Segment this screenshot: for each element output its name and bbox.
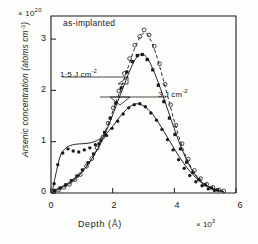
data-point-1p5 bbox=[173, 133, 176, 136]
data-point-1p5 bbox=[179, 147, 182, 150]
data-point-3 bbox=[121, 112, 124, 115]
plot-canvas bbox=[0, 0, 258, 244]
data-point-3 bbox=[160, 128, 163, 131]
data-point-3 bbox=[171, 148, 174, 151]
data-point-1p5 bbox=[81, 168, 84, 171]
data-point-3 bbox=[155, 118, 158, 121]
data-point-1p5 bbox=[216, 188, 219, 191]
data-point-3 bbox=[213, 189, 216, 192]
data-point-3 bbox=[166, 138, 169, 141]
data-point-3 bbox=[52, 182, 55, 185]
data-point-3 bbox=[127, 106, 130, 109]
data-point-1p5 bbox=[197, 178, 200, 181]
data-point-1p5 bbox=[103, 131, 106, 134]
data-point-3 bbox=[138, 102, 141, 105]
data-point-3 bbox=[99, 139, 102, 142]
data-point-1p5 bbox=[109, 116, 112, 119]
data-point-1p5 bbox=[157, 84, 160, 87]
data-point-1p5 bbox=[136, 54, 139, 57]
data-point-3 bbox=[72, 149, 75, 152]
data-point-as-implanted bbox=[142, 28, 146, 32]
data-point-3 bbox=[83, 148, 86, 151]
data-point-1p5 bbox=[191, 171, 194, 174]
data-point-1p5 bbox=[59, 186, 62, 189]
data-point-3 bbox=[183, 167, 186, 170]
data-point-as-implanted bbox=[128, 57, 132, 61]
data-point-1p5 bbox=[64, 183, 67, 186]
data-point-1p5 bbox=[92, 152, 95, 155]
data-point-1p5 bbox=[98, 142, 101, 145]
data-point-1p5 bbox=[185, 161, 188, 164]
data-point-3 bbox=[61, 151, 64, 154]
data-point-1p5 bbox=[86, 161, 89, 164]
data-point-3 bbox=[66, 147, 69, 150]
data-point-3 bbox=[88, 146, 91, 149]
data-point-as-implanted bbox=[158, 62, 162, 66]
data-point-1p5 bbox=[131, 60, 134, 63]
data-point-3 bbox=[194, 180, 197, 183]
data-point-as-implanted bbox=[111, 106, 115, 110]
data-point-3 bbox=[149, 111, 152, 114]
data-point-3 bbox=[188, 174, 191, 177]
chart-figure: × 1020 Arsenic concentration (atoms cm-3… bbox=[0, 0, 258, 244]
data-point-3 bbox=[177, 158, 180, 161]
data-point-1p5 bbox=[151, 68, 154, 71]
data-point-3 bbox=[105, 134, 108, 137]
data-point-1p5 bbox=[75, 174, 78, 177]
plot-frame bbox=[51, 16, 236, 193]
data-point-3 bbox=[56, 163, 59, 166]
data-point-1p5 bbox=[141, 53, 144, 56]
leader-arrow-3 bbox=[110, 97, 130, 105]
data-point-3 bbox=[77, 150, 80, 153]
data-point-1p5 bbox=[204, 183, 207, 186]
data-point-1p5 bbox=[210, 186, 213, 189]
data-point-1p5 bbox=[120, 86, 123, 89]
data-point-1p5 bbox=[168, 116, 171, 119]
data-point-1p5 bbox=[70, 179, 73, 182]
data-point-3 bbox=[116, 119, 119, 122]
data-point-3 bbox=[133, 103, 136, 106]
data-point-3 bbox=[110, 127, 113, 130]
data-point-1p5 bbox=[53, 189, 56, 192]
data-point-3 bbox=[94, 143, 97, 146]
data-point-as-implanted bbox=[169, 103, 173, 107]
data-point-3 bbox=[207, 187, 210, 190]
series-curve-2 bbox=[53, 54, 224, 191]
data-point-1p5 bbox=[125, 70, 128, 73]
data-point-3 bbox=[200, 184, 203, 187]
data-point-1p5 bbox=[146, 58, 149, 61]
data-point-1p5 bbox=[162, 100, 165, 103]
data-point-3 bbox=[144, 105, 147, 108]
